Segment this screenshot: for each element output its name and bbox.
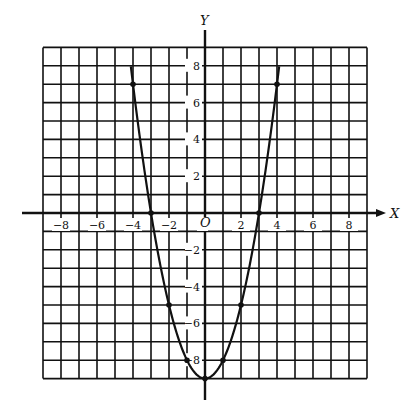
parabola-chart: −8−6−4−224688642−2−4−6−8 X Y O [0, 0, 419, 415]
x-tick-label: −8 [53, 219, 69, 232]
x-tick-label: 4 [274, 219, 281, 232]
x-tick-label: −2 [161, 219, 177, 232]
y-tick-label: −4 [184, 281, 200, 294]
data-point [148, 210, 154, 216]
y-tick-label: −6 [184, 317, 200, 330]
data-point [256, 210, 262, 216]
y-tick-label: 6 [193, 97, 200, 110]
x-tick-label: 6 [310, 219, 317, 232]
x-axis-arrow-icon [376, 209, 386, 217]
x-tick-label: 8 [346, 219, 353, 232]
data-point [130, 81, 136, 87]
y-tick-label: 4 [193, 133, 200, 146]
data-point [274, 81, 280, 87]
data-point [202, 376, 208, 382]
x-tick-label: −6 [89, 219, 105, 232]
x-tick-label: 2 [238, 219, 245, 232]
data-point [184, 357, 190, 363]
x-tick-label: −4 [125, 219, 141, 232]
x-axis-label: X [389, 206, 400, 221]
origin-label: O [200, 215, 211, 230]
y-tick-label: 8 [193, 60, 200, 73]
y-tick-label: 2 [193, 170, 200, 183]
data-point [166, 302, 172, 308]
data-point [238, 302, 244, 308]
y-tick-label: −2 [184, 244, 200, 257]
data-point [220, 357, 226, 363]
y-axis-label: Y [200, 13, 210, 28]
